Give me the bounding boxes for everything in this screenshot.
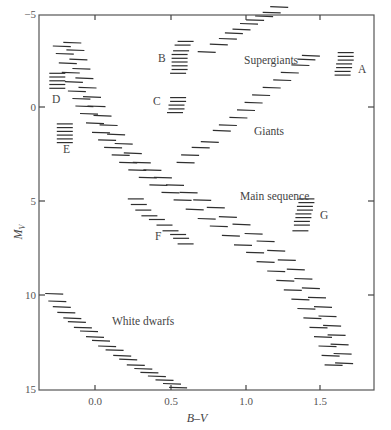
star-dash-marker (237, 110, 255, 111)
y-tick-label: 5 (31, 195, 37, 207)
star-dash-marker (225, 33, 243, 34)
star-dash-marker (98, 140, 116, 141)
label-supergiants: Supergiants (244, 54, 299, 67)
star-dash-marker (180, 192, 198, 193)
star-dash-marker (83, 97, 101, 98)
star-dash-marker (107, 134, 125, 135)
star-dash-marker (287, 269, 305, 270)
star-dash-marker (113, 355, 131, 356)
star-dash-marker (255, 16, 273, 17)
star-dash-marker (98, 346, 116, 347)
star-dash-marker (112, 155, 130, 156)
star-dash-marker (100, 125, 118, 126)
star-dash-marker (335, 363, 353, 364)
star-dash-marker (149, 185, 167, 186)
label-cluster-f: F (155, 230, 161, 242)
star-dash-marker (319, 316, 337, 317)
star-dash-marker (303, 318, 321, 319)
star-dash-marker (210, 226, 228, 227)
star-dash-marker (119, 359, 137, 360)
y-tick-label: 0 (31, 101, 37, 113)
y-axis-title: MV (11, 223, 27, 240)
star-dash-marker (148, 376, 166, 377)
star-dash-marker (245, 102, 263, 103)
star-dash-marker (177, 162, 195, 163)
star-dash-marker (124, 153, 142, 154)
x-tick-label: 1.0 (239, 395, 253, 407)
star-dash-marker (319, 346, 337, 347)
svg-text:MV: MV (11, 223, 27, 240)
star-dash-marker (273, 80, 291, 81)
star-dash-marker (66, 50, 84, 51)
label-cluster-e: E (63, 143, 70, 155)
label-giants: Giants (254, 125, 285, 137)
star-dash-marker (53, 307, 71, 308)
star-dash-marker (331, 344, 349, 345)
star-dash-marker (210, 44, 228, 45)
star-dash-marker (267, 271, 285, 272)
x-tick-label: 1.5 (313, 395, 327, 407)
star-dash-marker (143, 170, 161, 171)
star-dash-marker (219, 217, 237, 218)
star-dash-marker (163, 384, 181, 385)
star-dash-marker (201, 142, 219, 143)
x-tick-label: 0.5 (164, 395, 178, 407)
star-dash-marker (72, 69, 90, 70)
star-dash-marker (297, 59, 315, 60)
star-dash-marker (115, 144, 133, 145)
star-dash-marker (48, 301, 66, 302)
star-dash-marker (233, 29, 251, 30)
star-dash-marker (134, 369, 152, 370)
star-dash-marker (323, 325, 341, 326)
star-dash-marker (69, 59, 87, 60)
label-main-sequence: Main sequence (240, 190, 309, 203)
star-dash-marker (154, 177, 172, 178)
star-dash-marker (207, 207, 225, 208)
star-dash-marker (174, 200, 192, 201)
star-dash-marker (297, 309, 315, 310)
star-dash-marker (181, 155, 199, 156)
star-dash-marker (186, 209, 204, 210)
star-dash-marker (156, 380, 174, 381)
star-dash-marker (325, 365, 343, 366)
y-tick-label: 10 (25, 289, 37, 301)
star-dash-marker (65, 82, 83, 83)
star-dash-marker (246, 252, 264, 253)
star-dash-marker (94, 115, 112, 116)
star-dash-marker (104, 147, 122, 148)
star-dash-marker (222, 235, 240, 236)
star-dash-marker (257, 241, 275, 242)
star-dash-marker (68, 91, 86, 92)
star-dash-marker (75, 78, 93, 79)
star-dash-marker (59, 63, 77, 64)
star-dash-marker (245, 234, 263, 235)
x-axis-title: B–V (187, 411, 209, 425)
star-dash-marker (257, 262, 275, 263)
star-dash-marker (213, 130, 231, 131)
star-dash-marker (68, 322, 86, 323)
star-dash-marker (328, 335, 346, 336)
star-dash-marker (162, 192, 180, 193)
star-dash-marker (63, 42, 81, 43)
label-cluster-a: A (358, 63, 367, 75)
star-dash-marker (106, 350, 124, 351)
star-dash-marker (86, 337, 104, 338)
star-dash-marker (252, 95, 270, 96)
x-tick-label: 0.0 (88, 395, 102, 407)
star-dash-marker (263, 87, 281, 88)
star-dash-marker (56, 54, 74, 55)
x-axis-ticks (95, 15, 320, 390)
star-dash-marker (314, 337, 332, 338)
star-dash-marker (80, 114, 98, 115)
star-dash-marker (334, 354, 352, 355)
star-dash-marker (270, 7, 288, 8)
star-dash-marker (302, 55, 320, 56)
star-dash-marker (233, 224, 251, 225)
y-tick-label: −5 (24, 8, 36, 20)
star-dash-marker (267, 250, 285, 251)
star-dash-marker (314, 307, 332, 308)
star-dash-marker (234, 245, 252, 246)
star-dash-marker (281, 72, 299, 73)
star-dash-marker (198, 52, 216, 53)
star-dash-marker (86, 123, 104, 124)
